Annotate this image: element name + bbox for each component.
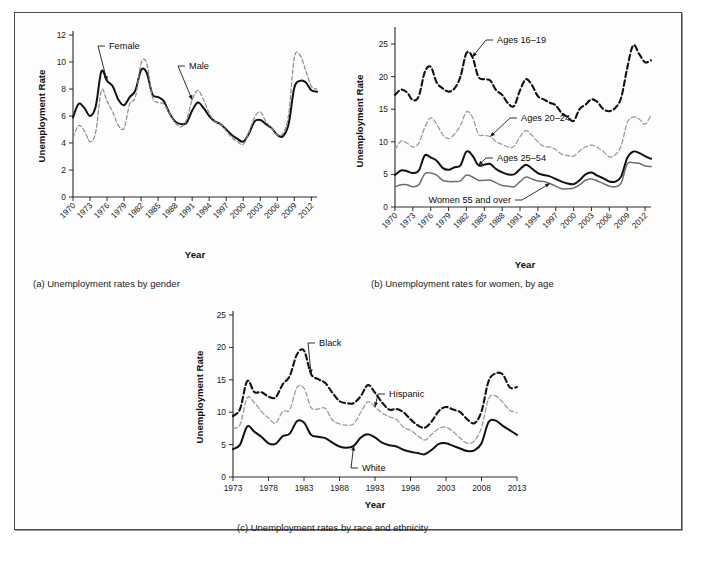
series-annotation-white: White [351, 446, 386, 473]
x-tick-label: 2009 [279, 201, 299, 221]
y-tick-label: 10 [379, 137, 389, 147]
x-tick-label: 2008 [472, 483, 491, 493]
x-tick-label: 1997 [541, 211, 561, 231]
y-axis-title: Unemployment Rate [354, 75, 365, 168]
chart-c-canvas: 0510152025197319781983198819931998200320… [187, 305, 537, 520]
x-tick-label: 1973 [75, 201, 95, 221]
series-line-ages-16-19 [395, 45, 651, 121]
x-tick-label: 1982 [126, 201, 146, 221]
y-tick-label: 5 [383, 169, 388, 179]
x-tick-label: 1994 [523, 211, 543, 231]
y-tick-label: 10 [217, 407, 227, 417]
leader-line [490, 118, 517, 137]
x-tick-label: 1983 [295, 483, 314, 493]
x-tick-label: 1970 [58, 201, 78, 221]
x-tick-label: 2006 [262, 201, 282, 221]
x-tick-label: 2003 [437, 483, 456, 493]
x-tick-label: 1997 [211, 201, 231, 221]
series-label: Male [189, 61, 209, 71]
x-tick-label: 1970 [380, 211, 400, 231]
series-line-white [233, 420, 517, 455]
x-axis-title: Year [365, 499, 386, 510]
chart-a-canvas: 0246810121970197319761979198219851988199… [29, 21, 339, 276]
x-tick-label: 1988 [330, 483, 349, 493]
x-axis-title: Year [515, 259, 536, 270]
x-tick-label: 1982 [452, 211, 472, 231]
series-annotation-hispanic: Hispanic [374, 389, 425, 407]
series-label: Women 55 and over [428, 195, 511, 205]
x-tick-label: 1985 [143, 201, 163, 221]
panel-b: 0510152025197019731976197919821985198819… [345, 21, 675, 301]
series-label: Ages 16–19 [497, 35, 546, 45]
x-tick-label: 2003 [245, 201, 265, 221]
x-tick-label: 1976 [92, 201, 112, 221]
y-tick-label: 15 [217, 375, 227, 385]
series-label: Ages 20–24 [521, 113, 570, 123]
y-tick-label: 0 [383, 202, 388, 212]
y-tick-label: 2 [61, 165, 66, 175]
x-tick-label: 1985 [469, 211, 489, 231]
leader-line [515, 184, 550, 200]
y-tick-label: 10 [57, 57, 67, 67]
y-tick-label: 25 [379, 39, 389, 49]
x-tick-label: 2003 [577, 211, 597, 231]
leader-line [178, 66, 192, 100]
x-tick-label: 1994 [194, 201, 214, 221]
series-annotation-male: Male [178, 61, 209, 100]
x-tick-label: 1973 [398, 211, 418, 231]
x-tick-label: 1988 [487, 211, 507, 231]
x-tick-label: 2000 [559, 211, 579, 231]
series-line-black [233, 349, 517, 428]
chart-b-canvas: 0510152025197019731976197919821985198819… [345, 21, 675, 276]
x-tick-label: 2009 [612, 211, 632, 231]
x-tick-label: 2012 [296, 201, 316, 221]
y-axis-title: Unemployment Rate [36, 70, 47, 163]
x-tick-label: 1979 [109, 201, 129, 221]
y-axis-title: Unemployment Rate [194, 351, 205, 444]
x-tick-label: 1979 [434, 211, 454, 231]
series-label: White [362, 463, 386, 473]
x-tick-label: 1988 [160, 201, 180, 221]
x-tick-label: 1998 [401, 483, 420, 493]
y-tick-label: 20 [379, 72, 389, 82]
panel-a: 0246810121970197319761979198219851988199… [29, 21, 339, 301]
series-line-female [73, 69, 317, 142]
y-tick-label: 5 [221, 440, 226, 450]
series-label: Female [109, 41, 140, 51]
series-annotation-women-55-and-over: Women 55 and over [428, 184, 549, 205]
panel-a-caption: (a) Unemployment rates by gender [33, 278, 180, 289]
y-tick-label: 0 [221, 472, 226, 482]
y-tick-label: 20 [217, 342, 227, 352]
y-tick-label: 0 [61, 192, 66, 202]
y-tick-label: 8 [61, 84, 66, 94]
x-tick-label: 1991 [177, 201, 197, 221]
series-label: Ages 25–54 [497, 153, 546, 163]
series-label: Hispanic [389, 389, 425, 399]
y-tick-label: 12 [57, 30, 67, 40]
series-annotation-black: Black [308, 338, 342, 374]
panel-c-caption: (c) Unemployment rates by race and ethni… [237, 522, 428, 533]
y-tick-label: 25 [217, 310, 227, 320]
series-label: Black [319, 338, 342, 348]
panel-c: 0510152025197319781983198819931998200320… [187, 305, 537, 535]
panel-b-caption: (b) Unemployment rates for women, by age [371, 278, 554, 289]
leader-line [308, 343, 315, 374]
figure-frame: 0246810121970197319761979198219851988199… [14, 12, 682, 530]
x-tick-label: 1993 [366, 483, 385, 493]
y-tick-label: 4 [61, 138, 66, 148]
x-axis-title: Year [185, 249, 206, 260]
y-tick-label: 15 [379, 104, 389, 114]
x-tick-label: 2006 [594, 211, 614, 231]
series-annotation-ages-16-19: Ages 16–19 [472, 35, 546, 57]
x-tick-label: 1991 [505, 211, 525, 231]
x-tick-label: 2012 [630, 211, 650, 231]
x-tick-label: 1976 [416, 211, 436, 231]
x-tick-label: 2013 [508, 483, 527, 493]
y-tick-label: 6 [61, 111, 66, 121]
x-tick-label: 1978 [259, 483, 278, 493]
x-tick-label: 1973 [224, 483, 243, 493]
x-tick-label: 2000 [228, 201, 248, 221]
